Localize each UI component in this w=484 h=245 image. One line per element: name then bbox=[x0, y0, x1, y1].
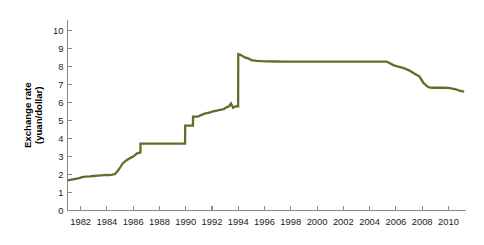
x-tick-label: 1996 bbox=[254, 216, 275, 227]
x-tick-label: 2010 bbox=[438, 216, 459, 227]
x-tick-label: 1994 bbox=[228, 216, 249, 227]
y-tick-label: 9 bbox=[58, 43, 63, 54]
y-tick-label: 3 bbox=[58, 151, 63, 162]
y-tick-label: 5 bbox=[58, 115, 63, 126]
x-tick-label: 2000 bbox=[307, 216, 328, 227]
x-tick-label: 1984 bbox=[96, 216, 117, 227]
x-tick-label: 1992 bbox=[202, 216, 223, 227]
x-tick-label: 1982 bbox=[70, 216, 91, 227]
x-axis-ticks: 1982198419861988199019921994199619982000… bbox=[70, 206, 459, 227]
y-tick-label: 2 bbox=[58, 169, 63, 180]
y-axis-title-line-1: Exchange rate bbox=[22, 82, 33, 148]
x-tick-label: 1998 bbox=[280, 216, 301, 227]
y-tick-label: 10 bbox=[53, 25, 63, 36]
y-tick-label: 8 bbox=[58, 61, 63, 72]
y-tick-label: 0 bbox=[58, 205, 63, 216]
x-tick-label: 2008 bbox=[412, 216, 433, 227]
y-axis-title-line-2: (yuan/dollar) bbox=[33, 86, 44, 144]
x-tick-label: 2002 bbox=[333, 216, 354, 227]
y-tick-label: 6 bbox=[58, 97, 63, 108]
x-tick-label: 2004 bbox=[359, 216, 380, 227]
x-tick-label: 1986 bbox=[123, 216, 144, 227]
x-tick-label: 1988 bbox=[149, 216, 170, 227]
y-tick-label: 1 bbox=[58, 187, 63, 198]
y-tick-label: 4 bbox=[58, 133, 63, 144]
chart-canvas: Exchange rate(yuan/dollar) 012345678910 … bbox=[0, 0, 484, 245]
x-tick-label: 2006 bbox=[385, 216, 406, 227]
y-axis-title: Exchange rate(yuan/dollar) bbox=[22, 82, 44, 148]
exchange-rate-chart-figure: Exchange rate(yuan/dollar) 012345678910 … bbox=[0, 0, 484, 245]
y-axis-ticks: 012345678910 bbox=[53, 25, 72, 216]
exchange-rate-line bbox=[68, 54, 465, 180]
y-tick-label: 7 bbox=[58, 79, 63, 90]
x-tick-label: 1990 bbox=[175, 216, 196, 227]
